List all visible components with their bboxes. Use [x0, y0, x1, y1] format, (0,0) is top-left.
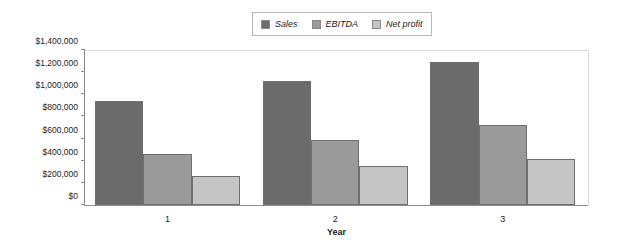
bar[interactable]	[143, 154, 191, 205]
legend-entry[interactable]: EBITDA	[312, 19, 359, 29]
legend-label: EBITDA	[326, 19, 359, 29]
chart-legend: SalesEBITDANet profit	[252, 12, 432, 36]
x-axis-tick-label: 3	[500, 214, 505, 224]
y-axis-tick-label: $800,000	[43, 103, 85, 112]
bar[interactable]	[479, 125, 527, 205]
bar-chart: SalesEBITDANet profit $0$200,000$400,000…	[0, 0, 623, 246]
legend-entry[interactable]: Net profit	[372, 19, 423, 29]
bar[interactable]	[311, 140, 359, 205]
bar[interactable]	[359, 166, 407, 205]
legend-swatch-icon	[312, 20, 321, 29]
bar[interactable]	[95, 101, 143, 205]
y-axis-tick-label: $400,000	[43, 147, 85, 156]
y-axis-tick-label: $200,000	[43, 169, 85, 178]
legend-swatch-icon	[372, 20, 381, 29]
y-axis-tick-label: $0	[69, 192, 85, 201]
y-axis-tick-label: $600,000	[43, 125, 85, 134]
y-axis-tick-label: $1,400,000	[35, 37, 85, 46]
x-axis-tick-label: 1	[165, 214, 170, 224]
bars-layer	[85, 50, 588, 205]
x-axis-tick-label: 2	[333, 214, 338, 224]
bar[interactable]	[430, 62, 478, 205]
legend-label: Sales	[275, 19, 298, 29]
legend-entry[interactable]: Sales	[261, 19, 298, 29]
bar[interactable]	[192, 176, 240, 205]
legend-swatch-icon	[261, 20, 270, 29]
legend-label: Net profit	[386, 19, 423, 29]
bar[interactable]	[527, 159, 575, 206]
plot-area: $0$200,000$400,000$600,000$800,000$1,000…	[84, 50, 588, 206]
y-axis-tick-label: $1,000,000	[35, 81, 85, 90]
x-axis-title: Year	[85, 227, 588, 237]
y-axis-tick-label: $1,200,000	[35, 59, 85, 68]
bar[interactable]	[263, 81, 311, 205]
